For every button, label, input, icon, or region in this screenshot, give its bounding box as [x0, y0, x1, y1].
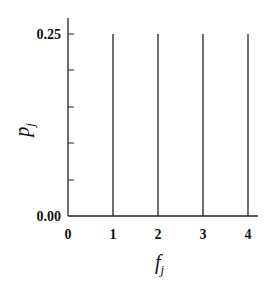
x-axis-label: fj: [155, 251, 165, 277]
chart: 0.25 0.00 0 1 2 3 4 fj pj: [0, 0, 269, 289]
x-tick-label: 0: [65, 227, 72, 242]
x-tick-label: 2: [155, 227, 162, 242]
y-axis-label: pj: [11, 123, 37, 139]
x-tick-label: 1: [110, 227, 117, 242]
y-tick-label-bottom: 0.00: [37, 209, 62, 224]
x-tick-label: 4: [245, 227, 252, 242]
stem-lines: [113, 34, 248, 216]
y-tick-label-top: 0.25: [37, 27, 62, 42]
x-tick-label: 3: [200, 227, 207, 242]
y-ticks: [68, 34, 74, 180]
